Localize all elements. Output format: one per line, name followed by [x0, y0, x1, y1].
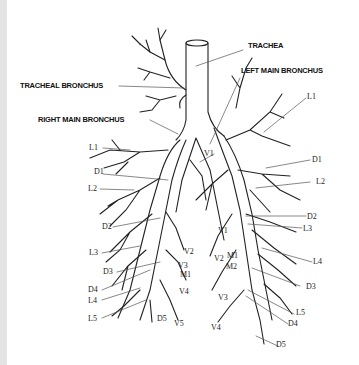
label-left-V2: V2 [214, 255, 224, 263]
label-left-M2: M2 [226, 263, 237, 271]
label-right-L2: L2 [88, 185, 97, 193]
label-tracheal-bronchus: TRACHEAL BRONCHUS [20, 82, 103, 90]
label-right-D4: D4 [88, 286, 98, 294]
label-left-D1: D1 [312, 156, 322, 164]
bronchial-tree-drawing [0, 0, 359, 365]
label-right-L5: L5 [88, 315, 97, 323]
label-left-V3: V3 [218, 294, 228, 302]
label-left-D4: D4 [288, 320, 298, 328]
label-left-L2: L2 [316, 178, 325, 186]
label-right-V1: V1 [204, 150, 214, 158]
label-right-L4: L4 [88, 297, 97, 305]
label-right-D1: D1 [94, 168, 104, 176]
label-left-L1: L1 [307, 93, 316, 101]
tracheal-bronchus-branch [132, 28, 186, 112]
label-right-D3: D3 [103, 268, 113, 276]
label-left-V1b: V1 [218, 227, 228, 235]
label-left-D2: D2 [307, 213, 317, 221]
label-right-M1: M1 [180, 271, 191, 279]
label-left-L5: L5 [296, 309, 305, 317]
label-right-L1: L1 [89, 144, 98, 152]
trachea-shape [176, 40, 224, 140]
label-left-D5: D5 [276, 341, 286, 349]
label-right-L3: L3 [89, 249, 98, 257]
label-trachea: TRACHEA [248, 42, 283, 50]
left-main-bronchus [176, 58, 300, 344]
label-right-V2: V2 [184, 248, 194, 256]
label-right-D2: D2 [102, 223, 112, 231]
right-main-bronchus [90, 140, 186, 322]
label-left-main-bronchus: LEFT MAIN BRONCHUS [241, 67, 323, 75]
label-right-V5: V5 [174, 320, 184, 328]
label-left-L4: L4 [313, 258, 322, 266]
label-left-D3: D3 [306, 283, 316, 291]
label-right-V3: V3 [178, 262, 188, 270]
label-left-L3: L3 [303, 225, 312, 233]
label-right-main-bronchus: RIGHT MAIN BRONCHUS [38, 116, 124, 124]
label-left-M1: M1 [227, 252, 238, 260]
label-right-V4: V4 [179, 288, 189, 296]
label-left-V4: V4 [211, 324, 221, 332]
label-right-D5: D5 [157, 315, 167, 323]
